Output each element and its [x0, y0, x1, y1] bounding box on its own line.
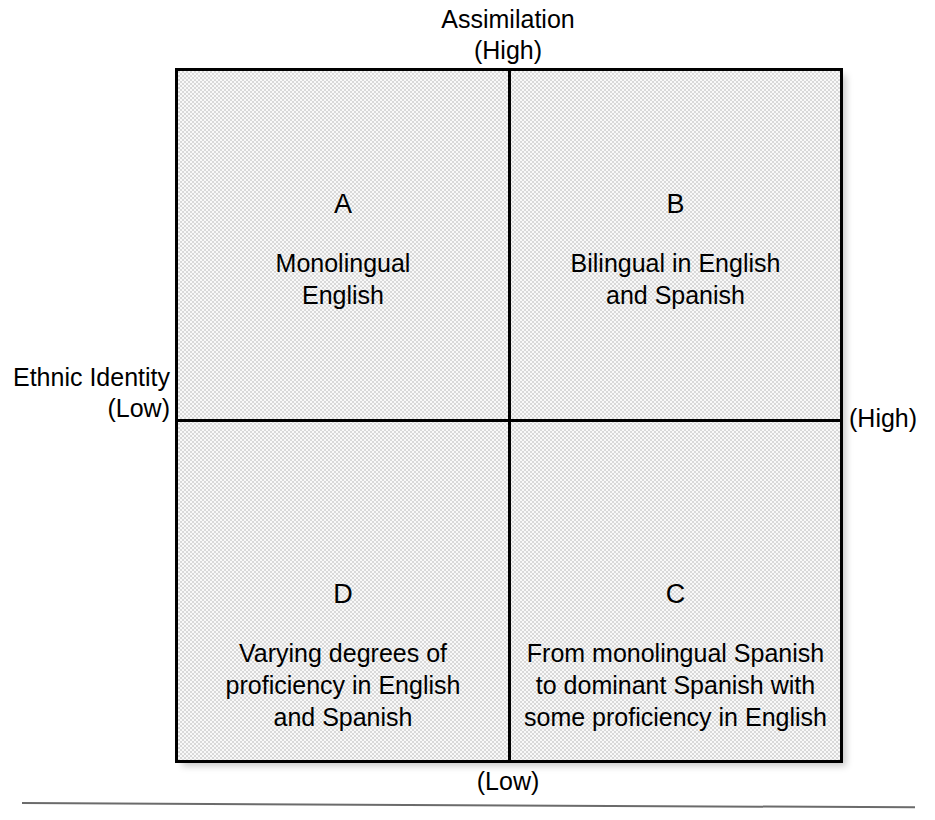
- axis-label-left-name: Ethnic Identity: [13, 363, 170, 391]
- quadrant-c-line-2: to dominant Spanish with: [517, 669, 834, 701]
- quadrant-a-line-2: English: [184, 279, 502, 311]
- quadrant-d-line-2: proficiency in English: [184, 669, 502, 701]
- quadrant-c-line-3: some proficiency in English: [517, 701, 834, 733]
- quadrant-b-letter: B: [511, 191, 840, 218]
- quadrant-a-text: Monolingual English: [178, 247, 508, 311]
- axis-label-top: Assimilation (High): [441, 4, 574, 66]
- quadrant-c-letter: C: [511, 581, 840, 608]
- axis-label-left-level: (Low): [13, 393, 170, 424]
- quadrant-d-text: Varying degrees of proficiency in Englis…: [178, 637, 508, 733]
- quadrant-c-text: From monolingual Spanish to dominant Spa…: [511, 637, 840, 733]
- quadrant-d-line-1: Varying degrees of: [184, 637, 502, 669]
- axis-label-top-name: Assimilation: [441, 5, 574, 33]
- footer-rule: [22, 802, 915, 808]
- axis-label-bottom-level: (Low): [477, 767, 540, 795]
- matrix-box: A Monolingual English B Bilingual in Eng…: [175, 68, 843, 763]
- axis-label-bottom: (Low): [477, 766, 540, 797]
- quadrant-b-line-1: Bilingual in English: [517, 247, 834, 279]
- quadrant-b: B Bilingual in English and Spanish: [511, 71, 840, 419]
- axis-label-right: (High): [849, 403, 917, 434]
- quadrant-d-line-3: and Spanish: [184, 701, 502, 733]
- quadrant-figure: Assimilation (High) Ethnic Identity (Low…: [0, 0, 935, 820]
- quadrant-a: A Monolingual English: [178, 71, 508, 419]
- axis-label-left: Ethnic Identity (Low): [13, 362, 170, 424]
- quadrant-a-letter: A: [178, 191, 508, 218]
- quadrant-d: D Varying degrees of proficiency in Engl…: [178, 422, 508, 760]
- axis-label-right-level: (High): [849, 404, 917, 432]
- quadrant-b-text: Bilingual in English and Spanish: [511, 247, 840, 311]
- quadrant-d-letter: D: [178, 581, 508, 608]
- quadrant-b-line-2: and Spanish: [517, 279, 834, 311]
- quadrant-c-line-1: From monolingual Spanish: [517, 637, 834, 669]
- quadrant-c: C From monolingual Spanish to dominant S…: [511, 422, 840, 760]
- axis-label-top-level: (High): [441, 35, 574, 66]
- quadrant-a-line-1: Monolingual: [184, 247, 502, 279]
